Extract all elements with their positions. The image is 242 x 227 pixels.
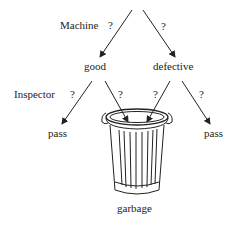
arrow-root-to-defective [143,10,175,57]
inspector-label: Inspector [14,89,55,100]
node-garbage: garbage [117,203,152,214]
decision-tree-diagram: Machine ? ? good defective Inspector ? ?… [0,0,242,227]
question-mark-inspector-4: ? [199,89,204,100]
question-mark-machine-left: ? [108,20,113,31]
diagram-arrows [0,0,242,227]
arrow-defective-to-garbage [147,81,170,122]
question-mark-inspector-2: ? [118,89,123,100]
machine-label: Machine [60,20,98,31]
question-mark-machine-right: ? [161,21,166,32]
arrow-good-to-garbage [105,81,128,122]
node-good: good [84,61,106,72]
arrow-good-to-pass [62,81,92,124]
question-mark-inspector-1: ? [70,89,75,100]
node-pass-right: pass [204,128,223,139]
node-defective: defective [153,61,193,72]
arrow-root-to-good [100,10,132,57]
arrow-defective-to-pass [182,81,210,124]
node-pass-left: pass [48,128,67,139]
question-mark-inspector-3: ? [153,89,158,100]
garbage-can-icon [102,109,172,194]
